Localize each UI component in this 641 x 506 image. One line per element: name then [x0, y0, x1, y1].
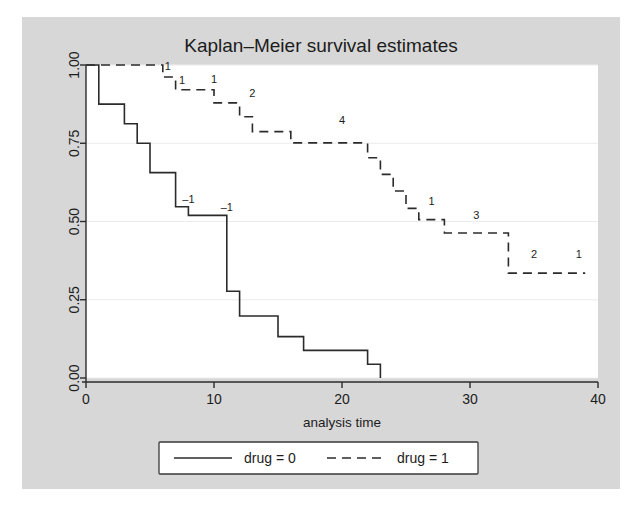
censor-annotation-1-8: 1 [576, 248, 582, 260]
x-tick-label-4: 40 [590, 391, 606, 407]
censor-annotation-1-4: 4 [339, 114, 345, 126]
censor-annotation-1-2: 1 [211, 73, 217, 85]
censor-annotation-1-5: 1 [429, 195, 435, 207]
legend-label-drug-0: drug = 0 [244, 450, 296, 466]
screenshot-root: Kaplan–Meier survival estimates –1–11112… [0, 0, 641, 506]
kaplan-meier-chart: Kaplan–Meier survival estimates –1–11112… [22, 17, 620, 489]
censor-annotation-0-0: –1 [182, 193, 194, 205]
y-tick-label-4: 1.00 [66, 51, 82, 78]
censor-annotation-1-3: 2 [249, 87, 255, 99]
x-tick-label-0: 0 [82, 391, 90, 407]
y-tick-label-2: 0.50 [66, 208, 82, 235]
censor-annotation-1-6: 3 [473, 209, 479, 221]
legend-label-drug-1: drug = 1 [397, 450, 449, 466]
x-tick-label-1: 10 [206, 391, 222, 407]
y-tick-label-0: 0.00 [66, 364, 82, 391]
x-axis-label: analysis time [303, 415, 381, 430]
censor-annotation-0-1: –1 [221, 201, 233, 213]
chart-legend[interactable]: drug = 0 drug = 1 [159, 442, 478, 474]
x-tick-label-3: 30 [462, 391, 478, 407]
chart-title: Kaplan–Meier survival estimates [184, 35, 458, 56]
censor-annotation-1-1: 1 [179, 74, 185, 86]
censor-annotation-1-0: 1 [165, 60, 171, 72]
y-tick-label-3: 0.75 [66, 129, 82, 156]
censor-annotation-1-7: 2 [531, 248, 537, 260]
x-tick-label-2: 20 [334, 391, 350, 407]
y-tick-label-1: 0.25 [66, 286, 82, 313]
stata-graph-region: Kaplan–Meier survival estimates –1–11112… [22, 17, 620, 489]
